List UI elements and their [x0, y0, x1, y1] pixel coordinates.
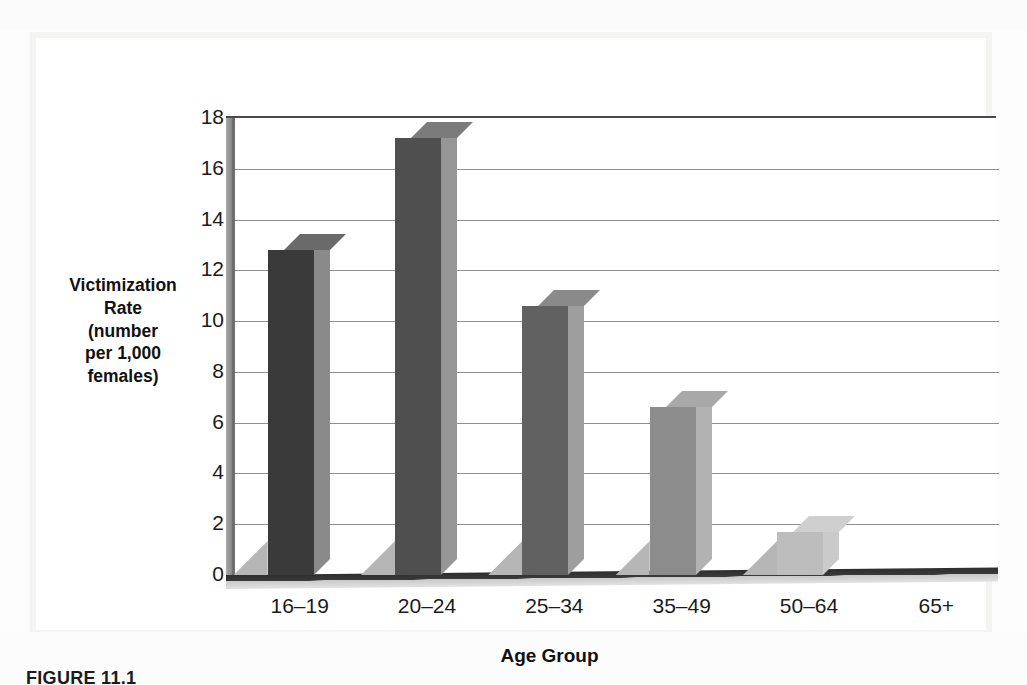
- y-axis-title-line: per 1,000: [58, 342, 188, 365]
- bar-shadow: [743, 541, 777, 575]
- bar-16-19[interactable]: [268, 250, 314, 575]
- gridline: [235, 321, 999, 322]
- bar-front-face: [650, 407, 696, 575]
- gridline: [235, 524, 999, 525]
- gridline: [235, 220, 999, 221]
- bar-side-face: [441, 122, 457, 575]
- bar-front-face: [268, 250, 314, 575]
- bar-shadow: [488, 541, 522, 575]
- gridline: [235, 169, 999, 170]
- y-axis-tick-label: 16: [180, 156, 224, 180]
- bar-shadow: [234, 541, 268, 575]
- bar-front-face: [395, 138, 441, 575]
- bar-35-49[interactable]: [650, 407, 696, 575]
- bar-side-face: [314, 234, 330, 575]
- x-axis-tick-label: 35–49: [652, 594, 710, 618]
- bar-shadow: [361, 541, 395, 575]
- gridline: [235, 270, 999, 271]
- y-axis-title-line: Victimization: [58, 274, 188, 297]
- y-axis-tick-label: 4: [180, 460, 224, 484]
- x-axis-tick-label: 65+: [919, 594, 955, 618]
- page-bleed-top: [0, 0, 1027, 30]
- bar-top-face: [666, 391, 728, 407]
- gridline: [235, 473, 999, 474]
- x-axis-tick-label: 50–64: [780, 594, 838, 618]
- gridline: [235, 372, 999, 373]
- bar-front-face: [777, 532, 823, 575]
- chart-canvas: 024681012141618 VictimizationRate(number…: [36, 38, 986, 630]
- y-axis-title-line: Rate: [58, 297, 188, 320]
- y-axis-tick-label: 18: [180, 105, 224, 129]
- x-axis-tick-label: 25–34: [525, 594, 583, 618]
- y-axis-tick-label: 14: [180, 207, 224, 231]
- bar-top-face: [793, 516, 855, 532]
- x-axis-tick-label: 16–19: [270, 594, 328, 618]
- y-axis-title: VictimizationRate(numberper 1,000females…: [58, 274, 188, 388]
- gridline: [235, 423, 999, 424]
- bar-top-face: [411, 122, 473, 138]
- bar-50-64[interactable]: [777, 532, 823, 575]
- bar-20-24[interactable]: [395, 138, 441, 575]
- y-axis-tick-label: 0: [180, 562, 224, 586]
- y-axis-tick-label: 2: [180, 511, 224, 535]
- x-axis-title: Age Group: [36, 645, 1027, 667]
- bar-shadow: [616, 541, 650, 575]
- scanned-page: 024681012141618 VictimizationRate(number…: [0, 0, 1027, 685]
- bar-side-face: [696, 391, 712, 575]
- bar-top-face: [284, 234, 346, 250]
- bar-side-face: [568, 290, 584, 575]
- y-axis-title-line: (number: [58, 320, 188, 343]
- y-axis-title-line: females): [58, 365, 188, 388]
- plot-area: [232, 118, 996, 575]
- y-axis-tick-label: 6: [180, 410, 224, 434]
- bar-top-face: [538, 290, 600, 306]
- bar-25-34[interactable]: [522, 306, 568, 575]
- x-axis-tick-label: 20–24: [398, 594, 456, 618]
- x-axis-tick-labels: 16–1920–2425–3435–4950–6465+: [232, 594, 1022, 624]
- bar-front-face: [522, 306, 568, 575]
- figure-caption: FIGURE 11.1: [26, 668, 136, 685]
